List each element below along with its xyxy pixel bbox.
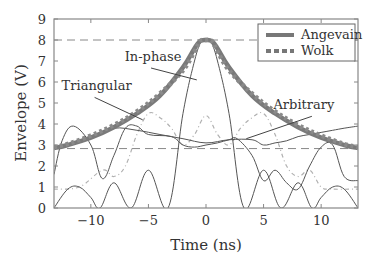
x-axis-label: Time (ns) (170, 236, 242, 254)
x-tick-label: 5 (259, 213, 267, 228)
y-tick-label: 3 (38, 138, 46, 153)
y-tick-label: 1 (38, 180, 46, 195)
y-tick-label: 9 (38, 12, 46, 27)
annotation-in-phase: In-phase (125, 49, 182, 64)
chart: In-phaseTriangularArbitrary −10−50510012… (0, 0, 376, 260)
y-tick-label: 7 (38, 54, 46, 69)
y-tick-label: 6 (38, 75, 46, 90)
x-tick-label: −5 (139, 213, 158, 228)
series-arbitrary (54, 126, 358, 147)
y-tick-label: 4 (38, 117, 46, 132)
legend-label-angevain: Angevain (300, 27, 363, 42)
legend: Angevain Wolk (258, 24, 363, 61)
legend-label-wolk: Wolk (301, 43, 333, 58)
x-tick-label: 10 (313, 213, 330, 228)
y-axis-label: Envelope (V) (12, 64, 30, 162)
plot-area: In-phaseTriangularArbitrary (54, 39, 358, 209)
y-tick-label: 0 (38, 201, 46, 216)
y-tick-label: 2 (38, 159, 46, 174)
x-tick-label: 0 (202, 213, 210, 228)
series-in-phase (54, 39, 358, 209)
annotation-arbitrary: Arbitrary (272, 97, 334, 112)
x-tick-label: −10 (77, 213, 104, 228)
annotation-triangular: Triangular (62, 78, 133, 93)
y-tick-label: 8 (38, 33, 46, 48)
annotation-leader (95, 97, 143, 119)
series-dash-dot (54, 113, 358, 190)
y-tick-label: 5 (38, 96, 46, 111)
